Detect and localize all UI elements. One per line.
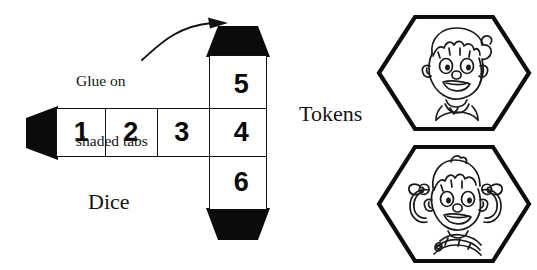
dice-face-6: 6: [209, 156, 267, 210]
token-girl: [376, 144, 532, 264]
glue-instruction-label: Glue on shaded tabs: [76, 31, 148, 191]
dice-label: Dice: [88, 189, 130, 215]
tokens-label: Tokens: [299, 101, 362, 127]
dice-face-value: 6: [234, 169, 249, 196]
glue-instruction-line1: Glue on: [76, 71, 148, 91]
dice-face-value: 4: [234, 119, 249, 146]
worksheet-canvas: 5 1 2 3 4 6 Glue on shaded tabs Dice Tok…: [0, 0, 537, 270]
glue-instruction-line2: shaded tabs: [76, 131, 148, 151]
dice-face-3: 3: [157, 108, 210, 157]
token-boy: [376, 14, 532, 132]
dice-face-value: 3: [174, 119, 189, 146]
glue-tab-left: [26, 106, 58, 160]
dice-face-value: 5: [234, 71, 249, 98]
curved-arrow-icon: [140, 16, 240, 64]
glue-tab-bottom: [206, 208, 270, 240]
dice-face-4: 4: [209, 108, 267, 157]
